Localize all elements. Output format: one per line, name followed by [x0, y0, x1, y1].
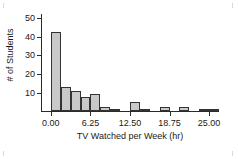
histogram-bar	[71, 91, 81, 111]
histogram-bar	[130, 102, 140, 111]
histogram-bar	[209, 109, 219, 111]
y-tick	[37, 37, 41, 38]
histogram-bar	[140, 109, 150, 111]
crop-mark-bottom-right	[232, 151, 233, 156]
x-tick-label: 6.25	[82, 118, 100, 128]
y-tick	[37, 55, 41, 56]
histogram-figure: # of Students 1020304050 0.006.2512.5018…	[0, 0, 238, 159]
plot-area: 1020304050 0.006.2512.5018.7525.00	[41, 14, 219, 112]
y-tick-label: 10	[25, 89, 35, 98]
x-tick-label: 25.00	[198, 118, 221, 128]
crop-mark-top-right	[232, 3, 233, 8]
x-tick	[90, 111, 91, 116]
histogram-bar	[51, 32, 61, 111]
y-tick-label: 50	[25, 13, 35, 22]
histogram-bar	[90, 94, 100, 111]
y-tick	[37, 74, 41, 75]
x-tick	[170, 111, 171, 116]
x-tick-label: 18.75	[158, 118, 181, 128]
y-tick-label: 30	[25, 51, 35, 60]
x-tick	[130, 111, 131, 116]
y-tick	[37, 18, 41, 19]
x-tick	[209, 111, 210, 116]
histogram-bar	[160, 107, 170, 111]
y-tick	[37, 93, 41, 94]
crop-mark-bottom-left	[3, 151, 4, 156]
histogram-bar	[61, 87, 71, 112]
x-tick-label: 12.50	[119, 118, 142, 128]
y-tick-label: 40	[25, 32, 35, 41]
histogram-bar	[81, 97, 91, 111]
x-axis-title: TV Watched per Week (hr)	[41, 131, 219, 142]
x-tick	[51, 111, 52, 116]
y-tick-label: 20	[25, 70, 35, 79]
histogram-bar	[110, 109, 120, 111]
y-axis-line	[41, 14, 42, 112]
histogram-bar	[100, 107, 110, 111]
histogram-bar	[199, 109, 209, 111]
histogram-bar	[179, 107, 189, 111]
x-tick-label: 0.00	[42, 118, 60, 128]
y-axis-title: # of Students	[3, 5, 17, 105]
